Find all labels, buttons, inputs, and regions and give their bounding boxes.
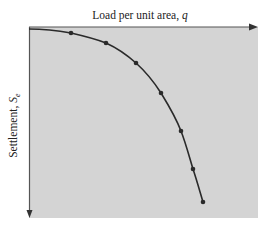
x-axis-label: Load per unit area, q	[0, 9, 272, 21]
data-point-marker	[201, 200, 206, 205]
data-point-marker	[69, 31, 74, 36]
y-axis-label: Settlement, Se	[7, 61, 22, 191]
plot-area	[29, 27, 258, 218]
data-point-marker	[179, 129, 184, 134]
data-point-marker	[191, 167, 196, 172]
data-point-marker	[134, 61, 139, 66]
chart-canvas	[0, 0, 272, 229]
data-point-marker	[104, 41, 109, 46]
load-settlement-figure: Load per unit area, q Settlement, Se	[0, 0, 272, 229]
data-point-marker	[159, 91, 164, 96]
